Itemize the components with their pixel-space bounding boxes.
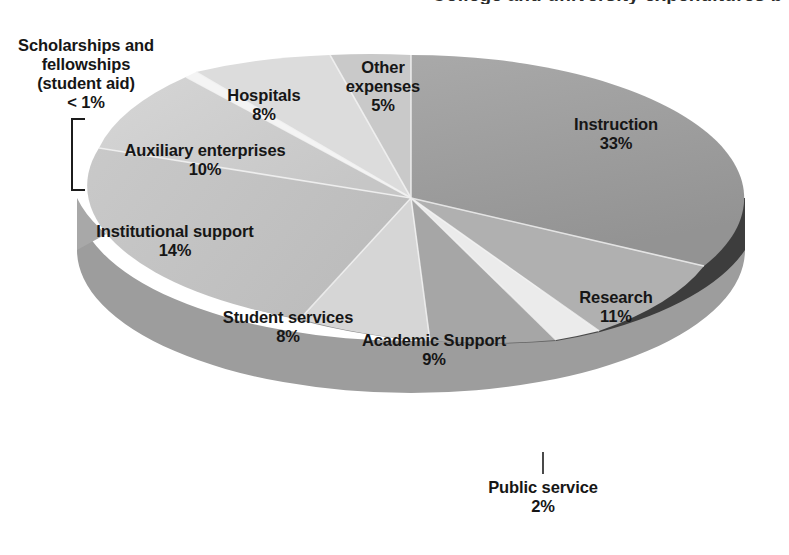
label-other-line1: Other [361,58,405,76]
label-public-value: 2% [455,497,631,516]
label-academic-value: 9% [332,350,536,369]
label-auxiliary-value: 10% [100,160,310,179]
label-research: Research 11% [540,288,692,326]
label-public-service: Public service 2% [455,478,631,516]
label-scholarships-fellowships: Scholarships and fellowships (student ai… [2,36,170,113]
label-institutional-name: Institutional support [96,222,253,240]
label-other-expenses: Other expenses 5% [330,58,436,115]
label-academic-name: Academic Support [362,331,506,349]
label-other-value: 5% [330,96,436,115]
label-auxiliary-enterprises: Auxiliary enterprises 10% [100,141,310,179]
label-public-name: Public service [488,478,598,496]
label-other-line2: expenses [346,77,420,95]
label-auxiliary-name: Auxiliary enterprises [124,141,285,159]
label-instruction: Instruction 33% [534,115,698,153]
label-hospitals-value: 8% [200,105,328,124]
label-scholarships-line2: fellowships [42,55,131,73]
label-research-value: 11% [540,307,692,326]
label-instruction-value: 33% [534,134,698,153]
label-scholarships-line3: (student aid) [37,74,135,92]
label-hospitals-name: Hospitals [227,86,300,104]
label-institutional-value: 14% [62,241,288,260]
label-scholarships-line1: Scholarships and [18,36,154,54]
label-academic-support: Academic Support 9% [332,331,536,369]
label-research-name: Research [579,288,653,306]
chart-canvas: College and university expenditures by c… [0,0,789,555]
label-instruction-name: Instruction [574,115,658,133]
label-institutional-support: Institutional support 14% [62,222,288,260]
label-hospitals: Hospitals 8% [200,86,328,124]
scholarships-leader-bracket [72,119,84,190]
label-scholarships-value: < 1% [2,93,170,112]
label-student-name: Student services [223,308,353,326]
